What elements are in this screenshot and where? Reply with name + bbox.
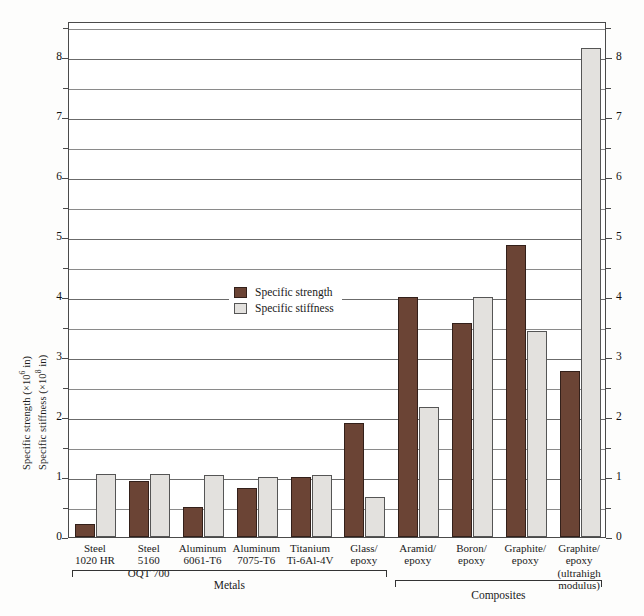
bar-stiffness — [312, 475, 332, 537]
category-label-line: Aluminum — [225, 542, 287, 554]
category-label: Boron/epoxy — [441, 542, 503, 567]
y-tick-mark-minor-right — [606, 388, 611, 389]
group-label: Composites — [395, 589, 602, 601]
y-tick-mark-minor-left — [63, 268, 68, 269]
chart-root: Specific strength (×106 in) Specific sti… — [0, 0, 644, 616]
y-tick-mark-left — [62, 58, 68, 59]
bar-strength — [129, 481, 149, 537]
category-label-line: Steel — [118, 542, 180, 554]
category-label: Steel1020 HR — [64, 542, 126, 567]
y-tick-mark-minor-left — [63, 28, 68, 29]
group-bracket — [72, 570, 387, 577]
y-tick-mark-right — [606, 118, 612, 119]
y-tick-mark-left — [62, 298, 68, 299]
y-tick-mark-minor-right — [606, 28, 611, 29]
category-label: TitaniumTi-6Al-4V — [279, 542, 341, 567]
y-tick-mark-right — [606, 298, 612, 299]
y-tick-mark-minor-right — [606, 268, 611, 269]
bar-strength — [398, 297, 418, 537]
bar-stiffness — [581, 48, 601, 537]
bar-stiffness — [258, 477, 278, 537]
legend-label: Specific strength — [255, 286, 333, 298]
category-label-line: Graphite/ — [548, 542, 610, 554]
y-tick-label-right: 7 — [616, 111, 638, 123]
category-label-line: Glass/ — [333, 542, 395, 554]
bar-stiffness — [473, 297, 493, 537]
category-label-line: 6061-T6 — [172, 554, 234, 566]
y-tick-mark-right — [606, 478, 612, 479]
y-tick-mark-minor-right — [606, 448, 611, 449]
y-tick-mark-minor-left — [63, 328, 68, 329]
y-tick-label-left: 4 — [40, 291, 62, 303]
legend-swatch-strength — [234, 287, 247, 298]
bar-stiffness — [365, 497, 385, 537]
y-tick-mark-left — [62, 118, 68, 119]
bar-strength — [237, 488, 257, 537]
category-label-line: Ti-6Al-4V — [279, 554, 341, 566]
y-tick-mark-minor-left — [63, 508, 68, 509]
legend-label: Specific stiffness — [255, 302, 334, 314]
y-tick-label-right: 5 — [616, 231, 638, 243]
y-tick-mark-right — [606, 178, 612, 179]
gridline-minor — [69, 29, 605, 30]
bar-strength — [344, 423, 364, 537]
gridline-minor — [69, 209, 605, 210]
y-axis-title-strength: Specific strength (×106 in) — [18, 356, 32, 470]
bar-strength — [291, 477, 311, 537]
category-label-line: Graphite/ — [494, 542, 556, 554]
y-tick-mark-left — [62, 418, 68, 419]
gridline-major — [69, 59, 605, 60]
bar-strength — [506, 245, 526, 537]
bar-stiffness — [150, 474, 170, 537]
gridline-minor — [69, 89, 605, 90]
bar-strength — [560, 371, 580, 537]
category-label-line: epoxy — [333, 554, 395, 566]
y-axis-title-stiffness-exponent: 8 — [34, 369, 43, 373]
y-tick-label-left: 6 — [40, 171, 62, 183]
category-label-line: 1020 HR — [64, 554, 126, 566]
category-label-line: Aluminum — [172, 542, 234, 554]
y-tick-label-right: 4 — [616, 291, 638, 303]
y-tick-mark-minor-left — [63, 208, 68, 209]
y-tick-mark-minor-left — [63, 148, 68, 149]
y-tick-mark-minor-left — [63, 88, 68, 89]
bar-strength — [452, 323, 472, 537]
y-tick-mark-right — [606, 58, 612, 59]
y-tick-label-right: 3 — [616, 351, 638, 363]
legend-item: Specific stiffness — [234, 300, 334, 316]
y-tick-mark-minor-left — [63, 388, 68, 389]
y-tick-label-left: 0 — [40, 531, 62, 543]
y-tick-label-left: 2 — [40, 411, 62, 423]
y-tick-mark-left — [62, 178, 68, 179]
y-tick-mark-right — [606, 358, 612, 359]
y-axis-title-strength-exponent: 6 — [18, 371, 27, 375]
y-tick-mark-left — [62, 238, 68, 239]
category-label-line: (ultrahigh — [548, 567, 610, 579]
y-tick-label-right: 6 — [616, 171, 638, 183]
category-label-line: 7075-T6 — [225, 554, 287, 566]
bar-strength — [183, 507, 203, 537]
category-label: Glass/epoxy — [333, 542, 395, 567]
y-tick-mark-right — [606, 238, 612, 239]
y-tick-mark-minor-right — [606, 208, 611, 209]
category-label-line: Aramid/ — [387, 542, 449, 554]
gridline-major — [69, 179, 605, 180]
category-label-line: Titanium — [279, 542, 341, 554]
y-tick-label-left: 8 — [40, 51, 62, 63]
gridline-minor — [69, 149, 605, 150]
category-label: Aramid/epoxy — [387, 542, 449, 567]
y-tick-label-left: 7 — [40, 111, 62, 123]
category-label-line: Steel — [64, 542, 126, 554]
category-label: Aluminum7075-T6 — [225, 542, 287, 567]
bar-stiffness — [419, 407, 439, 537]
bar-stiffness — [96, 474, 116, 537]
y-tick-mark-left — [62, 538, 68, 539]
y-tick-mark-minor-right — [606, 328, 611, 329]
gridline-major — [69, 239, 605, 240]
chart-legend: Specific strengthSpecific stiffness — [229, 281, 342, 319]
y-axis-title-strength-text: Specific strength (×10 — [21, 374, 32, 470]
category-label-line: epoxy — [387, 554, 449, 566]
legend-item: Specific strength — [234, 284, 334, 300]
y-tick-mark-right — [606, 418, 612, 419]
category-label-line: epoxy — [548, 554, 610, 566]
